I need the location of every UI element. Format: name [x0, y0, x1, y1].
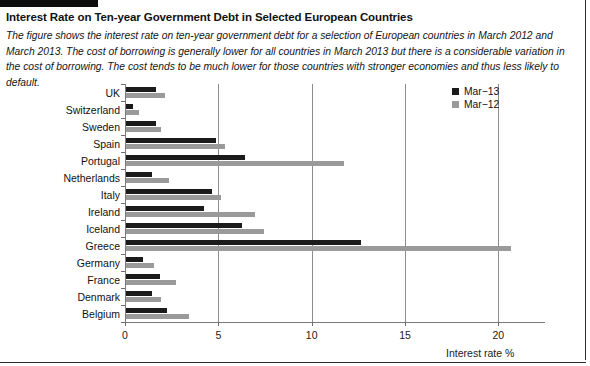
category-label: Italy: [101, 190, 120, 200]
x-axis-tick-label: 20: [492, 329, 504, 341]
page-top-bar: [0, 0, 98, 7]
legend-label: Mar−13: [464, 86, 499, 97]
category-label: France: [87, 275, 120, 285]
bar-germany-Mar-12: [126, 263, 154, 268]
bar-germany-Mar-13: [126, 257, 143, 262]
legend-item: Mar−12: [452, 98, 542, 111]
gridline: [405, 84, 406, 322]
category-label: Netherlands: [63, 173, 120, 183]
category-label: Iceland: [86, 224, 120, 234]
gridline: [218, 84, 219, 322]
y-axis-tick: [121, 220, 125, 221]
x-axis-tick-label: 15: [399, 329, 411, 341]
bar-denmark-Mar-12: [126, 297, 161, 302]
category-label: Spain: [93, 139, 120, 149]
x-axis-line: [125, 322, 545, 323]
page-bottom-border: [0, 362, 586, 363]
y-axis-tick: [121, 169, 125, 170]
bar-iceland-Mar-12: [126, 229, 264, 234]
x-axis-tick: [125, 322, 126, 326]
x-axis-tick-label: 0: [122, 329, 128, 341]
bar-spain-Mar-12: [126, 144, 225, 149]
legend-label: Mar−12: [464, 99, 499, 110]
y-axis-tick: [121, 186, 125, 187]
bar-portugal-Mar-13: [126, 155, 245, 160]
bar-switzerland-Mar-13: [126, 104, 133, 109]
bar-france-Mar-12: [126, 280, 176, 285]
bar-belgium-Mar-12: [126, 314, 189, 319]
bar-greece-Mar-13: [126, 240, 361, 245]
y-axis-tick: [121, 271, 125, 272]
gridline: [498, 84, 499, 322]
gridline: [312, 84, 313, 322]
bar-portugal-Mar-12: [126, 161, 344, 166]
category-axis-labels: UKSwitzerlandSwedenSpainPortugalNetherla…: [0, 84, 120, 322]
legend-square-swatch-icon: [452, 101, 459, 108]
y-axis-line: [125, 84, 126, 322]
x-axis-tick: [498, 322, 499, 326]
category-label: Germany: [77, 258, 120, 268]
y-axis-tick: [121, 152, 125, 153]
chart-legend: Mar−13Mar−12: [452, 85, 542, 111]
x-axis-tick-label: 5: [215, 329, 221, 341]
x-axis-tick: [405, 322, 406, 326]
bar-sweden-Mar-12: [126, 127, 161, 132]
bar-chart: UKSwitzerlandSwedenSpainPortugalNetherla…: [0, 80, 590, 350]
category-label: Ireland: [88, 207, 120, 217]
legend-square-swatch-icon: [452, 88, 459, 95]
y-axis-tick: [121, 135, 125, 136]
bar-uk-Mar-13: [126, 87, 156, 92]
y-axis-tick: [121, 237, 125, 238]
category-label: Greece: [86, 241, 120, 251]
y-axis-tick: [121, 322, 125, 323]
bar-ireland-Mar-13: [126, 206, 204, 211]
bar-denmark-Mar-13: [126, 291, 152, 296]
bar-italy-Mar-13: [126, 189, 212, 194]
bar-italy-Mar-12: [126, 195, 221, 200]
bar-france-Mar-13: [126, 274, 160, 279]
x-axis-tick: [218, 322, 219, 326]
bar-uk-Mar-12: [126, 93, 165, 98]
category-label: Belgium: [82, 309, 120, 319]
bar-iceland-Mar-13: [126, 223, 242, 228]
category-label: Sweden: [82, 122, 120, 132]
legend-item: Mar−13: [452, 85, 542, 98]
y-axis-tick: [121, 288, 125, 289]
category-label: Denmark: [77, 292, 120, 302]
bar-netherlands-Mar-13: [126, 172, 152, 177]
y-axis-tick: [121, 254, 125, 255]
y-axis-tick: [121, 118, 125, 119]
x-axis-tick: [312, 322, 313, 326]
y-axis-tick: [121, 203, 125, 204]
page-title: Interest Rate on Ten-year Government Deb…: [6, 11, 413, 23]
bar-netherlands-Mar-12: [126, 178, 169, 183]
y-axis-tick: [121, 84, 125, 85]
y-axis-tick: [121, 305, 125, 306]
category-label: Portugal: [81, 156, 120, 166]
bar-greece-Mar-12: [126, 246, 511, 251]
category-label: Switzerland: [66, 105, 120, 115]
figure-page: Interest Rate on Ten-year Government Deb…: [0, 0, 590, 366]
bar-sweden-Mar-13: [126, 121, 156, 126]
bar-ireland-Mar-12: [126, 212, 255, 217]
category-label: UK: [105, 88, 120, 98]
bar-belgium-Mar-13: [126, 308, 167, 313]
plot-area: 05101520Interest rate %: [125, 84, 545, 322]
y-axis-tick: [121, 101, 125, 102]
bar-spain-Mar-13: [126, 138, 216, 143]
bar-switzerland-Mar-12: [126, 110, 139, 115]
x-axis-tick-label: 10: [306, 329, 318, 341]
x-axis-title: Interest rate %: [446, 347, 514, 359]
